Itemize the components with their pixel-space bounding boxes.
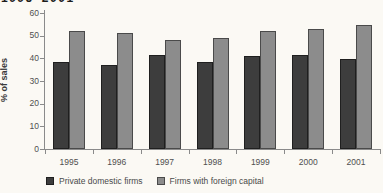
legend-swatch-dark — [46, 177, 54, 185]
bar-foreign-capital-2000 — [308, 29, 324, 149]
y-tick-label: 10 — [15, 122, 39, 131]
bar-foreign-capital-2001 — [356, 25, 372, 149]
x-category-label-1997: 1997 — [141, 157, 189, 167]
y-tick-label: 20 — [15, 99, 39, 108]
y-tick-mark — [40, 81, 44, 82]
bar-foreign-capital-1995 — [69, 31, 85, 149]
x-category-label-2001: 2001 — [332, 157, 380, 167]
bar-foreign-capital-1998 — [213, 38, 229, 149]
chart-legend: Private domestic firms Firms with foreig… — [46, 176, 264, 186]
y-tick-label: 40 — [15, 54, 39, 63]
y-tick-label: 30 — [15, 77, 39, 86]
y-tick-label: 50 — [15, 31, 39, 40]
y-tick-mark — [40, 149, 44, 150]
x-tick-mark — [141, 150, 142, 154]
legend-swatch-gray — [157, 177, 165, 185]
x-tick-mark — [236, 150, 237, 154]
legend-label: Private domestic firms — [59, 176, 143, 186]
y-tick-mark — [40, 36, 44, 37]
legend-label: Firms with foreign capital — [170, 176, 264, 186]
y-axis-label: % of sales — [0, 40, 13, 120]
bar-foreign-capital-1999 — [260, 31, 276, 149]
x-tick-mark — [284, 150, 285, 154]
legend-entry-foreign-capital: Firms with foreign capital — [157, 176, 264, 186]
bar-chart-figure: 1995–2001 % of sales Private domestic fi… — [0, 0, 383, 193]
y-axis-line — [44, 10, 45, 150]
bar-foreign-capital-1996 — [117, 33, 133, 149]
bar-private-domestic-2001 — [340, 59, 356, 149]
chart-title-fragment: 1995–2001 — [1, 0, 121, 5]
bar-private-domestic-2000 — [292, 55, 308, 149]
x-tick-mark — [189, 150, 190, 154]
bar-private-domestic-1995 — [53, 62, 69, 149]
bar-foreign-capital-1997 — [165, 40, 181, 149]
legend-entry-private-domestic: Private domestic firms — [46, 176, 143, 186]
x-category-label-1998: 1998 — [189, 157, 237, 167]
x-category-label-1995: 1995 — [45, 157, 93, 167]
y-tick-label: 0 — [15, 145, 39, 154]
y-tick-mark — [40, 104, 44, 105]
bar-private-domestic-1999 — [244, 56, 260, 149]
x-tick-mark — [45, 150, 46, 154]
x-axis-line — [44, 149, 381, 150]
clipped-chart-title: 1995–2001 — [1, 0, 121, 5]
x-category-label-2000: 2000 — [284, 157, 332, 167]
bar-private-domestic-1998 — [197, 62, 213, 149]
y-tick-mark — [40, 13, 44, 14]
bar-private-domestic-1996 — [101, 65, 117, 149]
x-tick-mark — [332, 150, 333, 154]
x-category-label-1996: 1996 — [93, 157, 141, 167]
x-tick-mark — [380, 150, 381, 154]
y-tick-mark — [40, 58, 44, 59]
x-tick-mark — [93, 150, 94, 154]
x-category-label-1999: 1999 — [236, 157, 284, 167]
bar-private-domestic-1997 — [149, 55, 165, 149]
y-tick-label: 60 — [15, 9, 39, 18]
y-tick-mark — [40, 126, 44, 127]
